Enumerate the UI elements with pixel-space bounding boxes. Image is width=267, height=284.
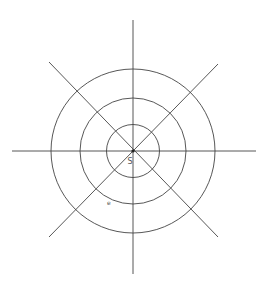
radial-diagram: S e bbox=[0, 0, 267, 284]
center-label: S bbox=[128, 157, 133, 166]
point-label: e bbox=[107, 199, 111, 206]
center-point bbox=[131, 149, 134, 152]
